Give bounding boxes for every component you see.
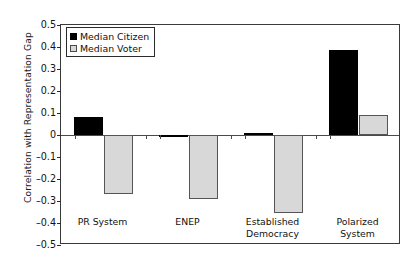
bar-median-voter [104,135,133,194]
y-axis-tick-label: 0.1 [41,107,56,118]
y-axis-tick-mark [57,201,61,202]
y-axis-tick-mark [57,91,61,92]
x-axis-tick-mark [231,135,232,139]
y-axis-tick-mark [57,25,61,26]
y-axis-tick-label: 0.5 [41,19,56,30]
plot-area [60,24,400,244]
y-axis-tick-mark [57,135,61,136]
bar-median-citizen [244,133,273,135]
legend-label: Median Citizen [80,31,149,42]
y-axis-tick-mark [57,179,61,180]
y-axis-tick-mark [57,47,61,48]
legend-item: Median Voter [70,42,149,54]
bar-chart: Correlation with Representation Gap 0.50… [0,0,413,269]
x-axis-tick-mark [160,135,161,139]
x-axis-category-labels: PR SystemENEPEstablishedDemocracyPolariz… [60,216,400,260]
legend-swatch-median-citizen-icon [70,33,77,40]
bar-median-citizen [159,135,188,137]
x-axis-tick-mark [75,135,76,139]
x-axis-category-label: PolarizedSystem [336,216,378,239]
x-axis-tick-mark [330,135,331,139]
y-axis-tick-label: –0.5 [36,239,56,250]
x-axis-tick-mark [316,135,317,139]
y-axis-tick-label: –0.3 [36,195,56,206]
y-axis-tick-label: 0.3 [41,63,56,74]
bar-median-citizen [74,117,103,135]
bar-median-voter [274,135,303,213]
x-axis-tick-mark [245,135,246,139]
y-axis-tick-label: –0.4 [36,217,56,228]
x-axis-category-label: PR System [78,216,128,228]
y-axis-tick-mark [57,157,61,158]
y-axis-tick-label: –0.1 [36,151,56,162]
legend-swatch-median-voter-icon [70,45,77,52]
legend: Median CitizenMedian Voter [66,27,155,57]
y-axis-tick-mark [57,69,61,70]
bar-median-citizen [329,50,358,135]
legend-item: Median Citizen [70,30,149,42]
bar-median-voter [359,115,388,135]
y-axis-tick-mark [57,113,61,114]
bar-median-voter [189,135,218,199]
legend-label: Median Voter [80,43,142,54]
y-axis-tick-label: 0.2 [41,85,56,96]
y-axis-tick-label: 0.4 [41,41,56,52]
x-axis-tick-mark [146,135,147,139]
x-axis-category-label: EstablishedDemocracy [246,216,299,239]
y-axis-tick-label: –0.2 [36,173,56,184]
y-axis-tick-label: 0 [50,129,56,140]
y-axis-tick-labels: 0.50.40.30.20.10–0.1–0.2–0.3–0.4–0.5 [22,18,56,240]
x-axis-category-label: ENEP [175,216,199,228]
